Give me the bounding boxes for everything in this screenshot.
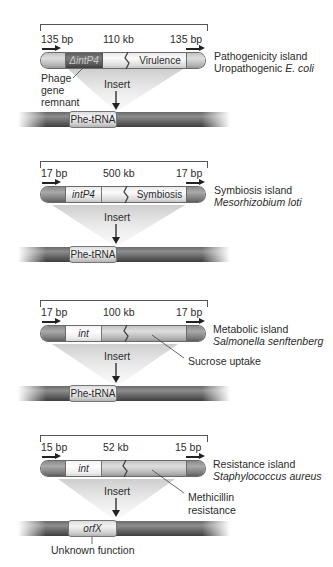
site-note-leader-line (0, 410, 333, 567)
panel-metabolic-island: 17 bp 100 kb 17 bp int Metabolic island … (0, 270, 333, 410)
chromosome-bar: Phe-tRNA (18, 386, 230, 401)
insertion-site: Phe-tRNA (69, 246, 117, 263)
insertion-site: Phe-tRNA (69, 111, 117, 128)
panel-pathogenicity-island: 135 bp 110 kb 135 bp ΔintP4 Virulence Pa… (0, 0, 333, 140)
panel-resistance-island: 15 bp 52 kb 15 bp int Resistance island … (0, 410, 333, 567)
site-note-label: Unknown function (51, 544, 134, 556)
panel-symbiosis-island: 17 bp 500 kb 17 bp intP4 Symbiosis Symbi… (0, 140, 333, 270)
insertion-site: Phe-tRNA (69, 385, 117, 402)
chromosome-bar: Phe-tRNA (18, 112, 230, 127)
chromosome-bar: Phe-tRNA (18, 247, 230, 262)
